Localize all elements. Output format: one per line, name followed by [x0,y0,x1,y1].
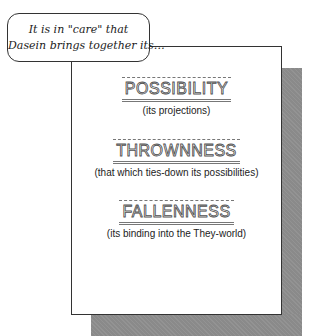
term-thrownness: THROWNNESS (that which ties-down its pos… [72,139,281,178]
term-subtitle: (its binding into the They-world) [72,228,281,239]
term-fallenness: FALLENNESS (its binding into the They-wo… [72,200,281,239]
term-title: FALLENNESS [119,200,233,225]
page-card: POSSIBILITY (its projections) THROWNNESS… [71,46,282,315]
page-shadow-bottom [91,314,302,336]
page-shadow-right [281,68,302,336]
term-title: THROWNNESS [113,139,240,164]
callout-bubble: It is in "care" that Dasein brings toget… [7,13,150,62]
callout-line-1: It is in "care" that [8,22,149,38]
term-title: POSSIBILITY [122,77,231,102]
callout-line-2: Dasein brings together its… [8,38,149,54]
term-possibility: POSSIBILITY (its projections) [72,77,281,116]
term-subtitle: (its projections) [72,105,281,116]
term-subtitle: (that which ties-down its possibilities) [72,167,281,178]
